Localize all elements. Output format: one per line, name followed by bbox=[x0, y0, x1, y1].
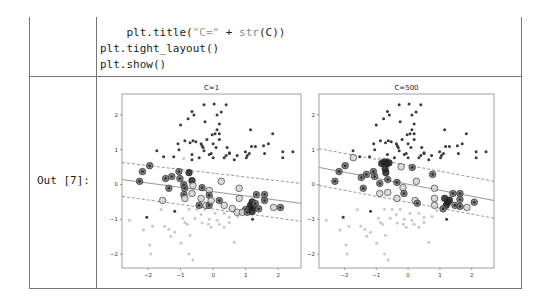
class1-point bbox=[461, 142, 464, 145]
x-tick-label: 1 bbox=[244, 272, 248, 278]
class1-point bbox=[386, 153, 389, 156]
class1-point bbox=[233, 158, 236, 161]
class0-point bbox=[149, 253, 152, 256]
class1-point bbox=[397, 146, 400, 149]
class1-point bbox=[228, 152, 231, 155]
plot-title: C=500 bbox=[394, 84, 418, 92]
support-vector bbox=[189, 190, 196, 197]
class0-point bbox=[423, 216, 426, 219]
class1-point bbox=[211, 133, 214, 136]
class0-point bbox=[346, 253, 349, 256]
class1-point bbox=[456, 144, 459, 147]
support-vector bbox=[236, 195, 243, 202]
support-vector bbox=[376, 190, 383, 197]
class1-point bbox=[212, 142, 215, 145]
class1-point bbox=[445, 218, 448, 221]
x-tick-label: −2 bbox=[340, 272, 348, 278]
class1-point bbox=[419, 103, 422, 106]
support-vector bbox=[441, 195, 448, 202]
class0-point bbox=[216, 219, 219, 222]
support-vector bbox=[413, 178, 420, 185]
class1-point bbox=[225, 154, 228, 157]
class0-point bbox=[391, 208, 394, 211]
class0-point bbox=[182, 157, 185, 160]
class0-point bbox=[378, 157, 381, 160]
class1-point bbox=[375, 123, 378, 126]
class1-point bbox=[155, 149, 158, 152]
y-tick-label: 1 bbox=[312, 147, 316, 153]
class1-point bbox=[281, 150, 284, 153]
class1-point bbox=[369, 210, 372, 213]
support-vector bbox=[398, 163, 405, 170]
class1-point bbox=[236, 154, 239, 157]
class1-point bbox=[407, 156, 410, 159]
class1-point bbox=[145, 216, 148, 219]
class0-point bbox=[403, 218, 406, 221]
class0-point bbox=[191, 258, 194, 261]
class1-point bbox=[218, 132, 221, 135]
support-vector bbox=[384, 189, 391, 196]
class1-point bbox=[386, 110, 389, 113]
class0-point bbox=[435, 209, 438, 212]
class1-point bbox=[409, 146, 412, 149]
class0-point bbox=[128, 219, 131, 222]
x-tick-label: 2 bbox=[470, 272, 474, 278]
y-tick-label: 0 bbox=[115, 181, 119, 187]
class1-point bbox=[379, 139, 382, 142]
class1-point bbox=[267, 142, 270, 145]
class1-point bbox=[198, 156, 201, 159]
class1-point bbox=[387, 139, 390, 142]
class1-point bbox=[475, 150, 478, 153]
support-vector bbox=[350, 154, 357, 161]
class1-point bbox=[179, 123, 182, 126]
class1-point bbox=[409, 132, 412, 135]
class1-point bbox=[384, 141, 387, 144]
y-tick-label: 2 bbox=[115, 112, 119, 118]
class1-point bbox=[202, 146, 205, 149]
class1-point bbox=[352, 149, 355, 152]
class0-point bbox=[369, 231, 372, 234]
class1-point bbox=[194, 140, 197, 143]
class1-point bbox=[465, 132, 468, 135]
class1-point bbox=[262, 144, 265, 147]
class1-point bbox=[173, 210, 176, 213]
class0-point bbox=[347, 225, 350, 228]
class1-point bbox=[419, 154, 422, 157]
class0-point bbox=[142, 229, 145, 232]
class0-point bbox=[181, 217, 184, 220]
class0-point bbox=[223, 212, 226, 215]
class0-point bbox=[179, 242, 182, 245]
class1-point bbox=[251, 218, 254, 221]
class1-point bbox=[187, 117, 190, 120]
class1-point bbox=[225, 103, 228, 106]
class1-point bbox=[423, 152, 426, 155]
class1-point bbox=[191, 139, 194, 142]
class0-point bbox=[167, 228, 170, 231]
class1-point bbox=[244, 150, 247, 153]
class0-point bbox=[160, 208, 163, 211]
class0-point bbox=[188, 208, 191, 211]
class0-point bbox=[339, 229, 342, 232]
class0-point bbox=[359, 225, 362, 228]
class1-point bbox=[291, 150, 294, 153]
class0-point bbox=[218, 223, 221, 226]
class1-point bbox=[190, 153, 193, 156]
class1-point bbox=[372, 142, 375, 145]
class0-point bbox=[208, 218, 211, 221]
class1-point bbox=[218, 138, 221, 141]
class1-point bbox=[410, 113, 413, 116]
class1-point bbox=[413, 122, 416, 125]
class1-point bbox=[390, 140, 393, 143]
class1-point bbox=[485, 150, 488, 153]
support-vector bbox=[186, 169, 193, 176]
class1-point bbox=[413, 138, 416, 141]
class0-point bbox=[173, 231, 176, 234]
class1-point bbox=[398, 103, 401, 106]
class0-point bbox=[200, 213, 203, 216]
x-tick-label: −1 bbox=[372, 272, 380, 278]
plot-area bbox=[122, 94, 301, 268]
class1-point bbox=[176, 142, 179, 145]
class1-point bbox=[214, 132, 217, 135]
x-tick-label: −2 bbox=[144, 272, 152, 278]
class1-point bbox=[358, 155, 361, 158]
